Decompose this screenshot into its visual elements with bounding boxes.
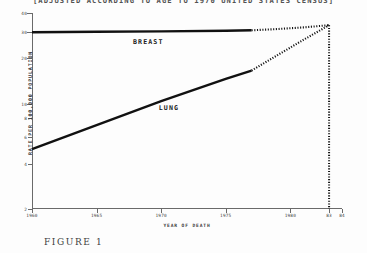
x-tick-label: 1975 (220, 213, 231, 218)
breast-projected-line (252, 25, 329, 30)
breast-observed-line (32, 30, 252, 32)
x-axis-label: YEAR OF DEATH (163, 223, 210, 228)
figure-caption: FIGURE 1 (44, 237, 103, 247)
plot-area: 403020108642 196019651970197519808384 BR… (32, 13, 342, 209)
y-tick-label: 4 (24, 161, 27, 166)
figure-panel: [ADJUSTED ACCORDING TO AGE TO 1970 UNITE… (0, 0, 367, 253)
y-tick-label: 30 (21, 29, 27, 34)
y-tick-label: 40 (21, 11, 27, 16)
x-tick-label: 84 (339, 213, 345, 218)
y-axis-label: RATE PER 100,000 POPULATION (27, 51, 33, 155)
series-label-breast: BREAST (133, 38, 163, 46)
y-tick-label: 2 (24, 207, 27, 212)
x-tick-label: 1980 (285, 213, 296, 218)
lung-projected-line (252, 25, 329, 70)
x-tick-label: 1970 (155, 213, 166, 218)
x-tick-label: 1965 (91, 213, 102, 218)
lung-observed-line (32, 71, 252, 150)
x-tick-label: 83 (326, 213, 332, 218)
series-label-lung: LUNG (159, 104, 179, 112)
chart-title: [ADJUSTED ACCORDING TO AGE TO 1970 UNITE… (0, 0, 367, 5)
x-tick-label: 1960 (26, 213, 37, 218)
series-layer (32, 13, 342, 209)
